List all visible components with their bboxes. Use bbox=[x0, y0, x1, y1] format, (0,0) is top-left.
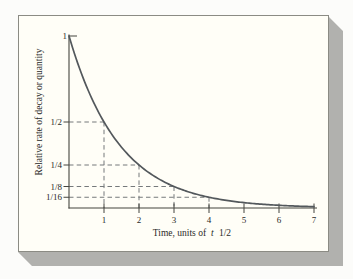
x-tick-label: 7 bbox=[312, 215, 317, 225]
x-axis-label-text: Time, units of bbox=[153, 228, 207, 238]
decay-chart: 1234567 11/21/41/81/16 Relative rate of … bbox=[0, 0, 353, 279]
x-tick-label: 4 bbox=[207, 215, 212, 225]
x-tick-label: 6 bbox=[277, 215, 282, 225]
y-tick-label: 1/4 bbox=[50, 160, 62, 170]
x-tick-label: 5 bbox=[242, 215, 247, 225]
y-axis-label: Relative rate of decay or quantity bbox=[34, 48, 44, 175]
y-tick-label: 1/16 bbox=[46, 192, 63, 202]
x-axis-label-subscript: 1/2 bbox=[219, 228, 231, 238]
x-tick-label: 3 bbox=[172, 215, 177, 225]
x-tick-label: 1 bbox=[102, 215, 107, 225]
x-axis-label: Time, units of t 1/2 bbox=[153, 228, 232, 238]
x-tick-label: 2 bbox=[137, 215, 142, 225]
y-tick-label: 1 bbox=[63, 31, 68, 41]
y-tick-label: 1/2 bbox=[50, 117, 62, 127]
decay-figure: 1234567 11/21/41/81/16 Relative rate of … bbox=[0, 0, 353, 279]
y-tick-label: 1/8 bbox=[50, 182, 62, 192]
x-axis-label-variable: t bbox=[211, 228, 214, 238]
